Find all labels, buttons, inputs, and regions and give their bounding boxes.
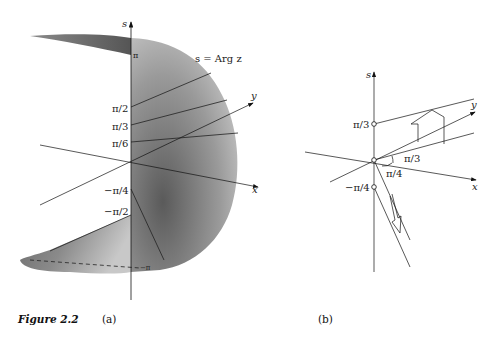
y-axis-label-b: y bbox=[470, 99, 477, 110]
tick-b-pi-3: π/3 bbox=[353, 119, 369, 130]
figure-caption-label: Figure 2.2 bbox=[18, 313, 79, 325]
tick-neg-pi-2: −π/2 bbox=[104, 206, 129, 217]
angle-label-pi-4: π/4 bbox=[386, 168, 402, 179]
panel-a: s y x s = Arg z π π/2 π/3 π/6 −π/4 −π/2 … bbox=[20, 18, 258, 300]
ray-neg-pi-4 bbox=[374, 187, 410, 267]
surface-main bbox=[131, 38, 237, 272]
surface-label: s = Arg z bbox=[195, 53, 242, 64]
ray-origin-pi-3 bbox=[374, 133, 474, 160]
figure-canvas: s y x s = Arg z π π/2 π/3 π/6 −π/4 −π/2 … bbox=[0, 0, 498, 337]
ray-pi-3 bbox=[374, 99, 474, 124]
up-arrow bbox=[411, 110, 444, 144]
panel-b-label: (b) bbox=[318, 313, 333, 325]
tick-pi-3: π/3 bbox=[112, 121, 128, 132]
angle-arc-pi-3 bbox=[392, 156, 393, 163]
x-axis-label-b: x bbox=[472, 181, 478, 192]
surface-bottom-wing bbox=[20, 215, 131, 274]
panel-b-labels: s y x π/3 −π/4 π/3 π/4 bbox=[345, 69, 478, 193]
s-axis-label-b: s bbox=[366, 69, 371, 80]
point-neg-pi-4 bbox=[372, 185, 377, 190]
angle-label-pi-3: π/3 bbox=[404, 153, 420, 164]
tick-neg-pi-4: −π/4 bbox=[104, 185, 129, 196]
y-axis-label-a: y bbox=[250, 90, 257, 101]
tick-pi-6: π/6 bbox=[112, 138, 128, 149]
tick-pi: π bbox=[133, 51, 138, 60]
y-axis-b bbox=[330, 112, 475, 182]
surface-top-strip bbox=[30, 34, 131, 55]
point-origin bbox=[372, 158, 377, 163]
point-pi-3 bbox=[372, 122, 377, 127]
tick-neg-pi: −π bbox=[140, 264, 151, 272]
s-axis-label-a: s bbox=[122, 18, 127, 29]
tick-pi-2: π/2 bbox=[112, 103, 128, 114]
panel-a-label: (a) bbox=[102, 313, 116, 325]
tick-b-neg-pi-4: −π/4 bbox=[345, 182, 370, 193]
x-axis-label-a: x bbox=[252, 184, 258, 195]
